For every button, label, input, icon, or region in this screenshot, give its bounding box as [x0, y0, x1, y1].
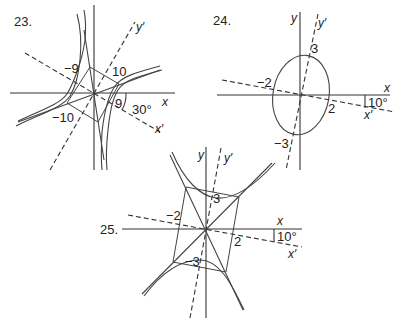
x-prime-label: x′: [363, 108, 373, 122]
y-prime-label: y′: [223, 151, 233, 165]
y-label: y: [197, 148, 205, 162]
label-neg3: −3: [274, 136, 289, 151]
y-prime-label: y′: [317, 16, 327, 30]
y-prime-axis: [50, 22, 135, 170]
label-neg9: −9: [64, 61, 79, 76]
label-3: 3: [311, 41, 318, 56]
panel-24: 24. y y′ 3 −2 2 −3 x x′ 10°: [213, 11, 395, 170]
label-2: 2: [234, 234, 241, 249]
hyperbola-branch: [106, 70, 162, 170]
angle-label: 10°: [277, 229, 297, 244]
panel-number: 25.: [100, 222, 118, 237]
y-prime-axis: [286, 14, 318, 170]
angle-label: 10°: [368, 95, 388, 110]
label-9: 9: [115, 96, 122, 111]
label-neg3: −3: [185, 254, 200, 269]
x-prime-label: x′: [287, 247, 297, 261]
panel-23: 23. −9 10 9 −10 30° x x′ y′: [10, 5, 175, 170]
angle-arc: [122, 93, 126, 110]
panel-number: 23.: [14, 14, 32, 29]
conic-rotation-figure: 23. −9 10 9 −10 30° x x′ y′ 24.: [0, 0, 399, 331]
angle-label: 30°: [132, 102, 152, 117]
x-label: x: [383, 81, 391, 95]
label-10: 10: [112, 64, 126, 79]
label-neg10: −10: [52, 110, 74, 125]
label-3: 3: [213, 191, 220, 206]
x-label: x: [161, 95, 169, 109]
y-label: y: [290, 11, 298, 25]
x-label: x: [276, 214, 284, 228]
label-neg2: −2: [257, 75, 272, 90]
panel-25: 25. y y′ 3 −2 2 −3 x x′ 10°: [100, 147, 302, 318]
y-prime-label: y′: [135, 20, 145, 34]
label-neg2: −2: [166, 208, 181, 223]
panel-number: 24.: [213, 13, 231, 28]
label-2: 2: [328, 101, 335, 116]
x-prime-label: x′: [154, 122, 164, 136]
